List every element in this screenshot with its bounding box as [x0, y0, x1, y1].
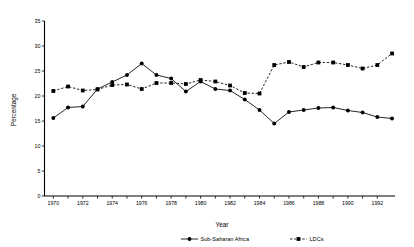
y-axis-title: Percentage [10, 93, 18, 126]
legend-marker-1 [297, 237, 301, 241]
data-point [361, 67, 365, 71]
y-tick-label: 0 [37, 193, 40, 199]
x-tick-label: 1986 [283, 200, 295, 206]
chart-container: 05101520253035 1970197219741976197819801… [0, 0, 414, 247]
data-point [317, 61, 321, 65]
y-tick-label: 20 [35, 93, 41, 99]
data-point [169, 81, 173, 85]
x-axis-tick-group: 1970197219741976197819801982198419861988… [48, 196, 384, 206]
data-point [331, 106, 335, 110]
data-point [169, 77, 173, 81]
data-point [66, 106, 70, 110]
data-point [331, 61, 335, 65]
data-point [272, 63, 276, 67]
data-point [51, 116, 55, 120]
data-point [390, 117, 394, 121]
data-point [228, 89, 232, 93]
x-tick-label: 1984 [254, 200, 266, 206]
series-group [51, 52, 394, 126]
y-tick-label: 35 [35, 18, 41, 24]
line-chart: 05101520253035 1970197219741976197819801… [0, 0, 414, 247]
x-tick-label: 1982 [224, 200, 236, 206]
data-point [258, 108, 262, 112]
data-point [199, 78, 203, 82]
data-point [66, 85, 70, 89]
data-point [96, 88, 100, 92]
data-point [110, 83, 114, 87]
data-point [375, 63, 379, 67]
data-point [213, 80, 217, 84]
x-tick-label: 1978 [165, 200, 177, 206]
legend-label-1: LDCs [310, 236, 324, 242]
y-tick-label: 5 [37, 168, 40, 174]
data-point [81, 89, 85, 93]
x-tick-label: 1972 [77, 200, 89, 206]
x-axis-title: Year [216, 221, 230, 228]
data-point [228, 84, 232, 88]
data-point [140, 87, 144, 91]
data-point [316, 106, 320, 110]
data-point [125, 73, 129, 77]
data-point [243, 98, 247, 102]
data-point [346, 63, 350, 67]
data-point [272, 122, 276, 126]
data-point [258, 92, 262, 96]
data-point [287, 60, 291, 64]
data-point [243, 91, 247, 95]
data-point [302, 65, 306, 69]
data-point [155, 81, 159, 85]
series-line-1 [53, 54, 392, 94]
data-point [125, 83, 129, 87]
data-point [346, 109, 350, 113]
data-point [361, 111, 365, 115]
data-point [154, 73, 158, 77]
data-point [213, 87, 217, 91]
data-point [390, 52, 394, 56]
x-tick-label: 1980 [195, 200, 207, 206]
data-point [375, 115, 379, 119]
series-line-0 [53, 64, 392, 124]
data-point [287, 110, 291, 114]
x-tick-label: 1974 [106, 200, 118, 206]
legend-label-0: Sub-Saharan Africa [201, 236, 250, 242]
x-tick-label: 1970 [48, 200, 60, 206]
data-point [184, 82, 188, 86]
x-tick-label: 1990 [342, 200, 354, 206]
y-axis-tick-group: 05101520253035 [35, 18, 45, 199]
y-tick-label: 15 [35, 118, 41, 124]
legend-marker-0 [188, 237, 192, 241]
data-point [51, 89, 55, 93]
data-point [140, 62, 144, 66]
x-tick-label: 1988 [313, 200, 325, 206]
data-point [184, 90, 188, 94]
x-tick-label: 1976 [136, 200, 148, 206]
y-tick-label: 30 [35, 43, 41, 49]
chart-legend: Sub-Saharan AfricaLDCs [181, 236, 324, 242]
data-point [302, 108, 306, 112]
y-tick-label: 25 [35, 68, 41, 74]
data-point [81, 105, 85, 109]
x-tick-label: 1992 [372, 200, 384, 206]
y-tick-label: 10 [35, 143, 41, 149]
